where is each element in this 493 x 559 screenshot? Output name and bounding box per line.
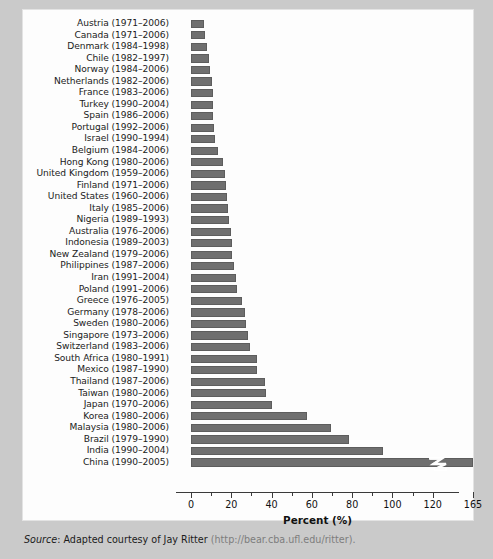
bar-row: Germany (1978–2006) [23, 307, 475, 319]
bar-row: Indonesia (1989–2003) [23, 237, 475, 249]
bar-row: China (1990–2005) [23, 457, 475, 469]
bar-track [176, 99, 475, 111]
x-tick-major [352, 492, 353, 498]
bar-row-label: Austria (1971–2006) [23, 18, 176, 30]
bar-row: Korea (1980–2006) [23, 411, 475, 423]
bar [191, 170, 225, 178]
bar [191, 262, 234, 270]
bar [191, 401, 272, 409]
bar-track [176, 237, 475, 249]
bar [191, 458, 473, 466]
bar-track [176, 157, 475, 169]
bar-row-label: United States (1960–2006) [23, 191, 176, 203]
bar-track [176, 399, 475, 411]
bar-track [176, 168, 475, 180]
bar-row-label: Malaysia (1980–2006) [23, 422, 176, 434]
bar-row: Belgium (1984–2006) [23, 145, 475, 157]
bar-row-label: Poland (1991–2006) [23, 284, 176, 296]
bar-track [176, 445, 475, 457]
bar-row-label: Portugal (1992–2006) [23, 122, 176, 134]
bar [191, 424, 331, 432]
x-tick-minor [413, 492, 414, 496]
x-tick-major [272, 492, 273, 498]
bar-row-label: France (1983–2006) [23, 87, 176, 99]
bar-row-label: Singapore (1973–2006) [23, 330, 176, 342]
bar-track [176, 272, 475, 284]
bar-row: Switzerland (1983–2006) [23, 341, 475, 353]
bar-row: India (1990–2004) [23, 445, 475, 457]
bar-track [176, 133, 475, 145]
bar-track [176, 214, 475, 226]
bar-row: Israel (1990–1994) [23, 133, 475, 145]
bar-row-label: Indonesia (1989–2003) [23, 237, 176, 249]
x-tick-major [433, 492, 434, 498]
bar-track [176, 284, 475, 296]
bar-row: Italy (1985–2006) [23, 203, 475, 215]
plot-area: Austria (1971–2006)Canada (1971–2006)Den… [23, 10, 473, 520]
bar-row-label: Japan (1970–2006) [23, 399, 176, 411]
bar [191, 20, 204, 28]
bar-row: Poland (1991–2006) [23, 284, 475, 296]
x-tick-label: 100 [383, 499, 401, 510]
x-tick-label: 20 [225, 499, 237, 510]
bar-row: Hong Kong (1980–2006) [23, 157, 475, 169]
bar [191, 216, 229, 224]
bar-row: New Zealand (1979–2006) [23, 249, 475, 261]
bar-track [176, 260, 475, 272]
bar-track [176, 191, 475, 203]
bar-rows: Austria (1971–2006)Canada (1971–2006)Den… [23, 18, 475, 468]
bar [191, 124, 214, 132]
x-tick-label: 60 [306, 499, 318, 510]
bar [191, 320, 246, 328]
bar-row-label: Mexico (1987–1990) [23, 364, 176, 376]
bar [191, 285, 237, 293]
bar-row-label: Italy (1985–2006) [23, 203, 176, 215]
bar-row-label: Israel (1990–1994) [23, 133, 176, 145]
bar-track [176, 145, 475, 157]
bar-row-label: Turkey (1990–2004) [23, 99, 176, 111]
x-tick-label: 40 [265, 499, 277, 510]
x-axis: 020406080100120165 Percent (%) [176, 492, 466, 532]
x-tick-major [231, 492, 232, 498]
bar-row-label: New Zealand (1979–2006) [23, 249, 176, 261]
bar-row-label: Nigeria (1989–1993) [23, 214, 176, 226]
bar-row: Austria (1971–2006) [23, 18, 475, 30]
x-tick-label: 165 [464, 499, 482, 510]
bar-row: Portugal (1992–2006) [23, 122, 475, 134]
bar-row-label: Netherlands (1982–2006) [23, 76, 176, 88]
bar-row: Singapore (1973–2006) [23, 330, 475, 342]
bar-row-label: Sweden (1980–2006) [23, 318, 176, 330]
bar [191, 66, 210, 74]
x-tick-major [392, 492, 393, 498]
bar [191, 343, 250, 351]
bar-row: Spain (1986–2006) [23, 110, 475, 122]
bar [191, 412, 307, 420]
bar-row: Nigeria (1989–1993) [23, 214, 475, 226]
bar-row: United States (1960–2006) [23, 191, 475, 203]
bar-track [176, 422, 475, 434]
bar-row-label: Philippines (1987–2006) [23, 260, 176, 272]
x-tick-minor [332, 492, 333, 496]
bar-row: Netherlands (1982–2006) [23, 76, 475, 88]
source-url: (http://bear.cba.ufl.edu/ritter). [211, 534, 356, 545]
bar-track [176, 330, 475, 342]
chart-panel: Austria (1971–2006)Canada (1971–2006)Den… [22, 9, 474, 521]
bar-track [176, 122, 475, 134]
bar-row: Thailand (1987–2006) [23, 376, 475, 388]
bar-row: Malaysia (1980–2006) [23, 422, 475, 434]
bar-row-label: South Africa (1980–1991) [23, 353, 176, 365]
bar-row-label: China (1990–2005) [23, 457, 176, 469]
x-tick-label: 0 [188, 499, 194, 510]
x-tick-major [312, 492, 313, 498]
bar-row: Australia (1976–2006) [23, 226, 475, 238]
bar-row: Norway (1984–2006) [23, 64, 475, 76]
bar-row-label: Hong Kong (1980–2006) [23, 157, 176, 169]
bar-track [176, 64, 475, 76]
bar-track [176, 364, 475, 376]
source-text: Adapted courtesy of Jay Ritter [63, 534, 210, 545]
bar-track [176, 411, 475, 423]
bar-track [176, 249, 475, 261]
bar-row-label: Taiwan (1980–2006) [23, 388, 176, 400]
bar-row: Chile (1982–1997) [23, 53, 475, 65]
bar [191, 366, 257, 374]
